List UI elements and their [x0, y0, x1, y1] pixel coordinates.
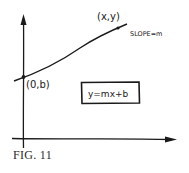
line-y-mx-b: [14, 24, 127, 81]
equation-box: y=mx+b: [82, 82, 140, 104]
equation-text: y=mx+b: [88, 89, 129, 99]
point-intercept-label: (0,b): [26, 79, 50, 90]
y-axis-arrow-icon: [21, 14, 27, 25]
x-axis-arrow-icon: [165, 137, 177, 143]
x-axis: [12, 137, 177, 143]
point-general: [116, 26, 119, 29]
figure-caption: FIG. 11: [13, 148, 52, 163]
point-intercept: [22, 75, 26, 79]
slope-label: SLOPE=m: [130, 30, 162, 38]
point-general-label: (x,y): [97, 11, 120, 22]
